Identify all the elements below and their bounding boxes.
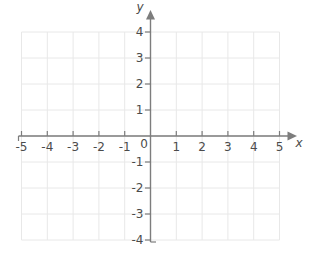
graph-canvas: -5-4-3-2-112345-4-3-2-112340xy (0, 0, 313, 261)
y-tick-label: -1 (132, 155, 144, 169)
y-tick-label: 3 (136, 51, 144, 65)
x-tick-label: -1 (119, 140, 131, 154)
x-tick-label: 1 (172, 140, 180, 154)
y-axis-arrow (146, 10, 155, 20)
y-tick-label: 2 (136, 77, 144, 91)
x-tick-label: 5 (276, 140, 284, 154)
x-tick-label: 3 (224, 140, 232, 154)
x-tick-label: -5 (16, 140, 28, 154)
y-tick-label: 1 (136, 103, 144, 117)
y-tick-label: -4 (132, 233, 144, 247)
origin-label: 0 (140, 137, 148, 151)
x-tick-label: 2 (198, 140, 206, 154)
y-tick-label: 4 (136, 25, 144, 39)
x-axis-label: x (294, 136, 303, 150)
y-tick-label: -3 (132, 207, 144, 221)
coordinate-plane: -5-4-3-2-112345-4-3-2-112340xy (0, 0, 313, 261)
y-tick-label: -2 (132, 181, 144, 195)
x-tick-label: -2 (93, 140, 105, 154)
y-axis-label: y (135, 0, 144, 14)
x-tick-label: -3 (67, 140, 79, 154)
x-tick-label: -4 (41, 140, 53, 154)
x-tick-label: 4 (250, 140, 258, 154)
